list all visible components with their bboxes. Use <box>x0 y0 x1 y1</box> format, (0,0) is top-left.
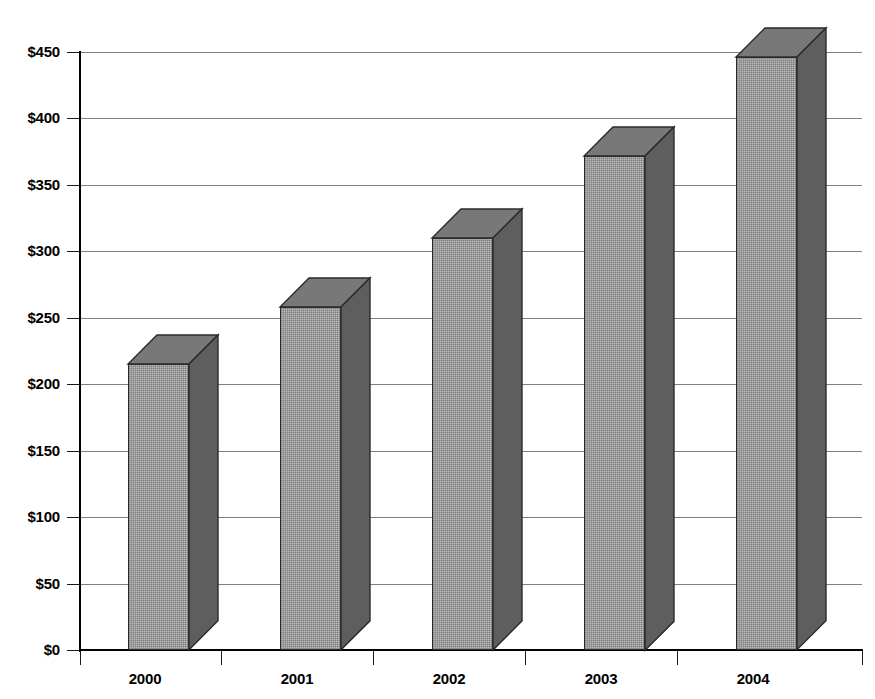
bar-front-face <box>584 156 645 650</box>
x-tick-mark-end <box>80 651 81 665</box>
y-axis-tick-label: $300 <box>0 243 60 258</box>
bar-front-face <box>736 57 797 650</box>
y-axis-tick-label: $100 <box>0 509 60 524</box>
x-axis-tick-label: 2001 <box>221 671 373 686</box>
bar-front-face <box>280 307 341 650</box>
x-tick-mark <box>677 651 678 665</box>
bar-front-face <box>432 238 493 650</box>
y-axis-line <box>79 51 81 652</box>
y-axis-tick-label: $50 <box>0 576 60 591</box>
bar-side-face <box>645 127 674 650</box>
plot-area: $0$50$100$150$200$250$300$350$400$450 20… <box>0 0 875 699</box>
y-axis-tick-label: $350 <box>0 177 60 192</box>
y-axis-tick-label: $200 <box>0 376 60 391</box>
chart-root: $0$50$100$150$200$250$300$350$400$450 20… <box>0 0 875 699</box>
y-axis-tick-label: $150 <box>0 443 60 458</box>
x-tick-mark <box>525 651 526 665</box>
x-tick-mark-end <box>862 651 863 665</box>
x-tick-mark <box>373 651 374 665</box>
x-axis-tick-label: 2004 <box>677 671 829 686</box>
bar-side-face <box>797 28 826 650</box>
x-tick-mark <box>221 651 222 665</box>
bar-front-face <box>128 364 189 650</box>
y-axis-tick-label: $250 <box>0 310 60 325</box>
y-axis-tick-label: $450 <box>0 44 60 59</box>
bar-side-face <box>493 209 522 650</box>
x-axis-tick-label: 2003 <box>525 671 677 686</box>
x-axis-tick-label: 2002 <box>373 671 525 686</box>
y-axis-tick-label: $400 <box>0 110 60 125</box>
bar-side-face <box>189 335 218 650</box>
bar-side-face <box>341 278 370 650</box>
cut-off-caption <box>0 685 875 699</box>
x-axis-tick-label: 2000 <box>69 671 221 686</box>
y-axis-tick-label: $0 <box>0 642 60 657</box>
